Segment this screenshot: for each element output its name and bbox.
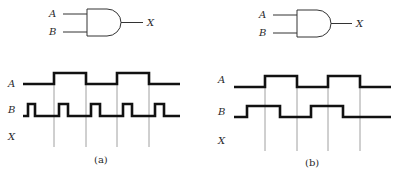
and-gate-timing-figure: A B X A B X (a) A B bbox=[0, 0, 399, 177]
panel-a-caption: (a) bbox=[94, 154, 108, 165]
panel-b-caption: (b) bbox=[305, 157, 319, 168]
wave-a-label-a: A bbox=[7, 78, 15, 89]
gate-a-output-x-label: X bbox=[146, 17, 155, 28]
gate-b-input-a-label: A bbox=[258, 9, 266, 20]
gate-a-input-b-label: B bbox=[48, 26, 56, 37]
and-gate-b: A B X bbox=[258, 9, 364, 38]
wave-a-label-x: X bbox=[7, 131, 16, 142]
wave-a-label-b: B bbox=[7, 104, 15, 115]
and-gate-a: A B X bbox=[48, 8, 155, 37]
and-gate-b-body-icon bbox=[297, 10, 331, 37]
panel-b-waveform-a bbox=[234, 76, 391, 87]
gate-b-input-b-label: B bbox=[258, 27, 266, 38]
panel-b-waveform-b bbox=[234, 106, 391, 117]
wave-b-label-x: X bbox=[217, 135, 226, 146]
panel-a-waveform-b bbox=[23, 104, 180, 116]
panel-a: A B X A B X (a) bbox=[7, 8, 180, 165]
gate-a-input-a-label: A bbox=[48, 8, 56, 19]
panel-a-waveform-a bbox=[23, 73, 180, 84]
wave-b-label-b: B bbox=[217, 106, 225, 117]
panel-b: A B X A B X (b) bbox=[217, 9, 391, 168]
and-gate-a-body-icon bbox=[87, 9, 121, 36]
gate-b-output-x-label: X bbox=[355, 18, 364, 29]
wave-b-label-a: A bbox=[217, 74, 225, 85]
